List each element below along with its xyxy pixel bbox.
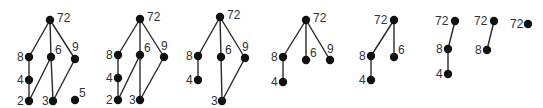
node-label-8: 8 (475, 43, 482, 57)
node-label-9: 9 (161, 39, 168, 53)
node-6 (217, 53, 225, 61)
node-6 (302, 56, 310, 64)
node-9 (160, 53, 168, 61)
node-label-4: 4 (106, 71, 113, 85)
node-label-72: 72 (474, 14, 488, 28)
node-6 (390, 53, 398, 61)
hasse-panel-5: 72864 (359, 13, 405, 87)
node-label-6: 6 (310, 46, 317, 60)
node-4 (279, 78, 287, 86)
node-4 (367, 76, 375, 84)
edge-72-6 (220, 17, 221, 57)
node-2 (114, 96, 122, 104)
edge-72-6 (50, 20, 51, 57)
node-label-8: 8 (359, 49, 366, 63)
node-label-8: 8 (271, 50, 278, 64)
node-label-3: 3 (129, 93, 136, 107)
node-2 (25, 97, 33, 105)
node-label-2: 2 (106, 93, 113, 107)
node-label-5: 5 (79, 86, 86, 100)
node-label-72: 72 (57, 11, 71, 25)
edge-6-3 (221, 57, 222, 101)
node-label-4: 4 (271, 75, 278, 89)
node-8 (483, 46, 491, 54)
node-label-6: 6 (55, 43, 62, 57)
node-label-72: 72 (435, 14, 449, 28)
node-label-72: 72 (313, 11, 327, 25)
edge-72-8 (283, 20, 306, 57)
node-label-3: 3 (211, 94, 218, 108)
node-label-6: 6 (398, 43, 405, 57)
node-label-8: 8 (106, 48, 113, 62)
node-4 (114, 74, 122, 82)
edge-72-8 (29, 20, 50, 57)
node-4 (194, 76, 202, 84)
node-label-72: 72 (147, 10, 161, 24)
edge-9-3 (53, 59, 75, 101)
node-label-4: 4 (186, 73, 193, 87)
node-6 (136, 51, 144, 59)
node-label-9: 9 (72, 40, 79, 54)
hasse-panel-6: 7284 (435, 14, 459, 81)
hasse-panel-4: 728694 (271, 11, 334, 89)
diagram-canvas: 7286942357286942372869437286947286472847… (0, 0, 543, 108)
node-4 (444, 70, 452, 78)
node-label-9: 9 (242, 40, 249, 54)
hasse-panel-7: 728 (474, 14, 498, 57)
node-72 (490, 17, 498, 25)
node-3 (218, 97, 226, 105)
node-label-4: 4 (359, 73, 366, 87)
node-label-4: 4 (17, 73, 24, 87)
node-label-4: 4 (436, 67, 443, 81)
node-8 (114, 51, 122, 59)
hasse-panel-8: 72 (510, 17, 532, 31)
edge-72-8 (487, 21, 494, 50)
node-9 (241, 54, 249, 62)
node-label-3: 3 (42, 94, 49, 108)
node-label-6: 6 (144, 41, 151, 55)
edge-6-3 (51, 57, 53, 101)
node-72 (302, 16, 310, 24)
node-8 (279, 53, 287, 61)
node-5 (71, 96, 79, 104)
edge-9-3 (140, 57, 164, 100)
node-72 (390, 16, 398, 24)
node-4 (25, 76, 33, 84)
node-72 (136, 15, 144, 23)
node-8 (444, 45, 452, 53)
node-72 (216, 13, 224, 21)
node-label-8: 8 (17, 50, 24, 64)
node-label-2: 2 (17, 94, 24, 108)
node-label-8: 8 (436, 42, 443, 56)
node-label-72: 72 (510, 17, 524, 31)
edge-9-3 (222, 58, 245, 101)
node-label-72: 72 (374, 13, 388, 27)
hasse-diagram-sequence: 7286942357286942372869437286947286472847… (0, 0, 543, 108)
node-label-8: 8 (186, 49, 193, 63)
edge-72-8 (198, 17, 220, 56)
node-label-6: 6 (225, 43, 232, 57)
node-72 (46, 16, 54, 24)
hasse-panel-1: 728694235 (17, 11, 86, 108)
node-label-9: 9 (327, 42, 334, 56)
node-8 (25, 53, 33, 61)
node-label-72: 72 (227, 8, 241, 22)
node-3 (136, 96, 144, 104)
hasse-panel-2: 72869423 (106, 10, 168, 107)
hasse-panel-3: 7286943 (186, 8, 249, 108)
node-72 (524, 20, 532, 28)
node-72 (451, 17, 459, 25)
node-3 (49, 97, 57, 105)
node-9 (326, 56, 334, 64)
node-8 (367, 52, 375, 60)
edge-72-8 (118, 19, 140, 55)
node-6 (47, 53, 55, 61)
node-9 (71, 55, 79, 63)
edge-72-8 (448, 21, 455, 49)
node-8 (194, 52, 202, 60)
